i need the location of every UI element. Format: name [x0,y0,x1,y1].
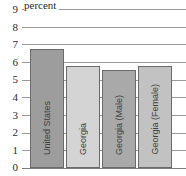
bar-label-wrap-georgia: Georgia [67,123,99,155]
bar-label-georgia-female: Georgia (Female) [150,84,160,155]
bar-label-wrap-united-states: United States [31,101,63,155]
bar-label-united-states: United States [42,101,52,155]
bar-label-wrap-georgia-male: Georgia (Male) [103,95,135,155]
bars-layer: United States Georgia Georgia (Male) Geo… [0,0,186,176]
bar-united-states[interactable]: United States [30,49,64,168]
bar-georgia-female[interactable]: Georgia (Female) [138,66,172,168]
y-axis-unit-label: percent [24,0,59,11]
bar-georgia[interactable]: Georgia [66,66,100,168]
bar-chart: percent 9 8 7 6 5 4 3 2 1 0 United State… [0,0,186,176]
bar-georgia-male[interactable]: Georgia (Male) [102,70,136,168]
bar-label-georgia-male: Georgia (Male) [114,95,124,155]
bar-label-wrap-georgia-female: Georgia (Female) [139,84,171,155]
bar-label-georgia: Georgia [78,123,88,155]
